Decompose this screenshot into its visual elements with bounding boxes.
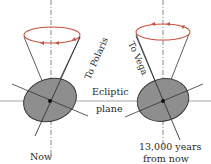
to-vega-label: To Vega [126, 40, 150, 77]
arrow-icon [166, 22, 170, 26]
now-caption: Now [30, 151, 52, 162]
panel-future: To Vega 13,000 years from now [125, 0, 203, 164]
to-polaris-label: To Polaris [83, 36, 110, 81]
arrow-icon [55, 41, 59, 45]
arrow-icon [151, 22, 155, 26]
ecliptic-label: Ecliptic [92, 86, 129, 97]
future-caption-line2: from now [143, 153, 189, 164]
precession-diagram: To Polaris Now Ecliptic plane To Vega 13… [0, 0, 211, 164]
arrow-icon [40, 41, 44, 45]
future-caption-line1: 13,000 years [139, 141, 201, 152]
earth-center-future [161, 99, 165, 103]
plane-label: plane [96, 103, 123, 114]
earth-center-now [48, 99, 52, 103]
panel-now: To Polaris Now [12, 0, 110, 162]
precession-circle-now [24, 27, 80, 43]
